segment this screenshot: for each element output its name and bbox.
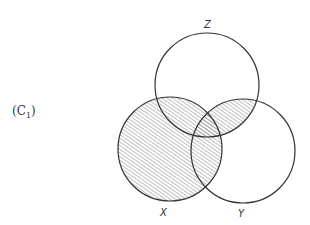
venn-diagram: Z X Y: [0, 0, 310, 225]
set-y-label: Y: [238, 208, 245, 219]
set-z-label: Z: [203, 19, 212, 30]
set-x-label: X: [159, 207, 168, 218]
